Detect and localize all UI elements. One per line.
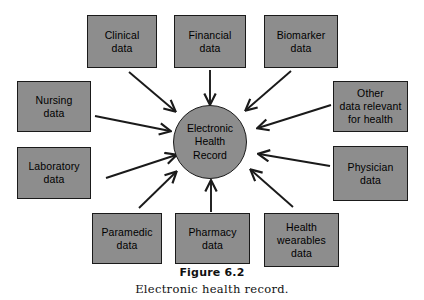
node-financial-data-label: Financialdata <box>187 29 234 55</box>
node-physician-data: Physiciandata <box>333 146 408 201</box>
node-clinical-data-label: Clinicaldata <box>103 29 142 55</box>
hub-electronic-health-record: ElectronicHealthRecord <box>173 105 247 179</box>
figure-caption-subtitle: Electronic health record. <box>0 282 424 296</box>
figure-caption-title: Figure 6.2 <box>0 266 424 279</box>
node-other-data-relevant-for-health-label: Otherdata relevantfor health <box>337 87 403 126</box>
hub-label: ElectronicHealthRecord <box>185 122 235 163</box>
node-pharmacy-data-label: Pharmacydata <box>186 226 238 252</box>
node-pharmacy-data: Pharmacydata <box>175 213 250 264</box>
node-biomarker-data-label: Biomarkerdata <box>275 29 328 55</box>
node-health-wearables-data-label: Healthwearablesdata <box>275 221 328 260</box>
node-paramedic-data-label: Paramedicdata <box>99 226 154 252</box>
arrow-other-to-hub <box>258 105 331 128</box>
arrow-biomarker-to-hub <box>246 71 291 110</box>
arrow-laboratory-to-hub <box>106 155 176 178</box>
node-nursing-data-label: Nursingdata <box>34 94 75 120</box>
node-health-wearables-data: Healthwearablesdata <box>264 213 339 267</box>
node-other-data-relevant-for-health: Otherdata relevantfor health <box>333 81 408 132</box>
node-biomarker-data: Biomarkerdata <box>264 15 338 68</box>
arrow-nursing-to-hub <box>95 116 170 131</box>
arrow-paramedic-to-hub <box>139 172 176 208</box>
node-nursing-data: Nursingdata <box>17 81 91 132</box>
node-laboratory-data: Laboratorydata <box>17 147 91 199</box>
node-paramedic-data: Paramedicdata <box>92 213 162 264</box>
node-physician-data-label: Physiciandata <box>346 161 396 187</box>
arrow-clinical-to-hub <box>129 72 175 111</box>
node-clinical-data: Clinicaldata <box>87 15 157 68</box>
arrow-wearables-to-hub <box>251 170 293 207</box>
arrow-physician-to-hub <box>259 154 330 166</box>
node-financial-data: Financialdata <box>174 15 246 68</box>
node-laboratory-data-label: Laboratorydata <box>26 160 81 186</box>
figure-container: Clinicaldata Financialdata Biomarkerdata… <box>0 0 424 300</box>
